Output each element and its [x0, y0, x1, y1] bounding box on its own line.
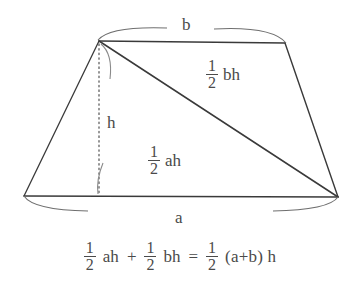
fraction-numerator: 1 [144, 240, 156, 256]
fraction-one-half: 1 2 [148, 144, 160, 178]
fraction-denominator: 2 [144, 257, 156, 273]
apex-angle-arc [101, 44, 111, 79]
equation-fraction-result: 1 2 [206, 240, 218, 274]
brace-bottom-left-arc [24, 196, 88, 211]
base-angle-arc [98, 163, 103, 194]
trapezoid-side-bottom [24, 196, 338, 197]
trapezoid-side-top [99, 41, 285, 43]
fraction-one-half: 1 2 [206, 58, 218, 92]
fraction-numerator: 1 [206, 240, 218, 256]
area-term: bh [223, 65, 240, 85]
fraction-denominator: 2 [206, 75, 218, 91]
trapezoid-side-right [285, 43, 338, 197]
upper-triangle-area-label: 1 2 bh [206, 58, 240, 92]
fraction-numerator: 1 [148, 144, 160, 160]
equation-fraction-first: 1 2 [84, 240, 96, 274]
side-label-b: b [182, 16, 191, 33]
area-equation: 1 2 ah + 1 2 bh = 1 2 (a+b) h [0, 240, 360, 274]
equation-term-result: (a+b) h [225, 247, 276, 267]
area-term: ah [165, 151, 181, 171]
trapezoid-side-left [24, 41, 99, 196]
side-label-a: a [175, 209, 183, 226]
figure-page: b a h 1 2 bh 1 2 ah 1 2 ah + 1 [0, 0, 360, 286]
fraction-numerator: 1 [84, 240, 96, 256]
fraction-denominator: 2 [206, 257, 218, 273]
equals-operator: = [187, 247, 199, 267]
equation-term-second: bh [163, 247, 180, 267]
fraction-denominator: 2 [84, 257, 96, 273]
fraction-denominator: 2 [148, 161, 160, 177]
brace-top-left-arc [98, 28, 167, 40]
brace-bottom-right-arc [273, 197, 338, 211]
equation-term-first: ah [103, 247, 119, 267]
plus-operator: + [126, 247, 138, 267]
height-label-h: h [107, 114, 116, 131]
fraction-numerator: 1 [206, 58, 218, 74]
equation-fraction-second: 1 2 [144, 240, 156, 274]
brace-top-right-arc [214, 29, 286, 43]
lower-triangle-area-label: 1 2 ah [148, 144, 181, 178]
